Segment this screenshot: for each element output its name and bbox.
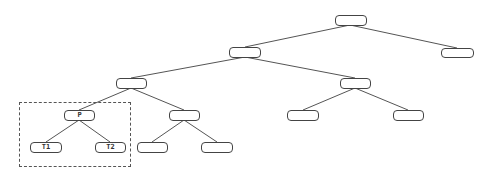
tree-node-p: P bbox=[64, 110, 95, 121]
tree-node-l3-r-left bbox=[287, 110, 319, 121]
tree-node-root bbox=[335, 15, 367, 26]
tree-node-l3-sibling bbox=[169, 110, 200, 121]
tree-node-l2-right bbox=[340, 78, 371, 89]
tree-node-l1-left bbox=[229, 47, 261, 58]
tree-node-t2: T2 bbox=[95, 142, 126, 153]
tree-node-l1-right bbox=[441, 48, 474, 58]
edge-r-right bbox=[355, 88, 408, 110]
edge-l1-left bbox=[131, 57, 245, 78]
edge-to-sibling bbox=[131, 88, 184, 110]
tree-node-l3-r-right bbox=[393, 110, 424, 121]
tree-node-t1: T1 bbox=[30, 142, 62, 153]
tree-node-l2-left bbox=[116, 78, 147, 89]
tree-node-l4-s-left bbox=[137, 142, 168, 153]
edge-s-right bbox=[184, 120, 217, 142]
edge-s-left bbox=[152, 120, 184, 142]
edge-l1-right bbox=[245, 57, 355, 78]
edge-r-left bbox=[303, 88, 355, 110]
edge-root-right bbox=[350, 25, 457, 48]
tree-node-l4-s-right bbox=[201, 142, 233, 153]
edge-root-left bbox=[245, 25, 350, 47]
